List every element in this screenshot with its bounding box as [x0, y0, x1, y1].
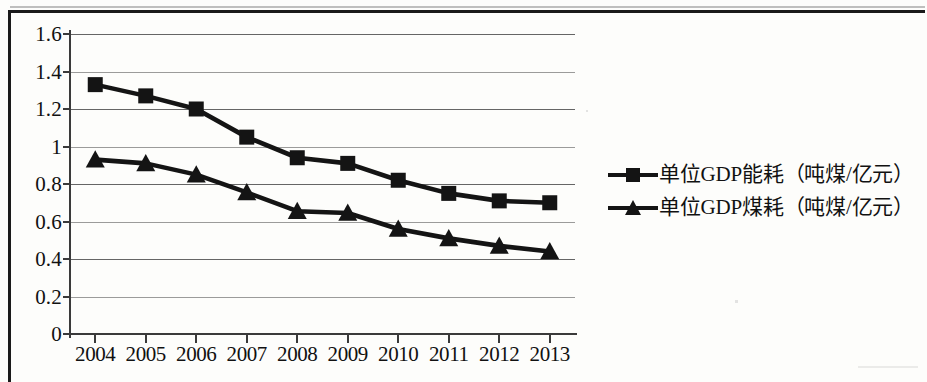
square-data-marker: [138, 88, 153, 103]
legend-label-coal: 单位GDP煤耗（吨煤/亿元）: [659, 197, 914, 218]
y-axis-tick-label: 1.4: [35, 62, 62, 83]
y-axis-tick-label: 0.8: [35, 174, 62, 195]
square-data-marker: [290, 150, 305, 165]
square-data-marker: [189, 102, 204, 117]
legend-label-energy: 单位GDP能耗（吨煤/亿元）: [659, 164, 914, 185]
x-axis-tick-label: 2010: [378, 344, 418, 365]
x-axis-tick-label: 2005: [126, 344, 166, 365]
line-chart: 00.20.40.60.811.21.41.6 2004200520062007…: [0, 0, 600, 382]
y-axis-tick-label: 0.6: [35, 212, 62, 233]
x-axis-tick-label: 2004: [75, 344, 115, 365]
series-energy: [88, 77, 558, 210]
x-axis-labels: 2004200520062007200820092010201120122013: [70, 344, 575, 376]
x-axis-tick-label: 2012: [479, 344, 519, 365]
x-axis-tick-label: 2006: [176, 344, 216, 365]
data-series-layer: [70, 34, 575, 334]
square-data-marker: [239, 130, 254, 145]
y-axis-tick-label: 0: [51, 324, 62, 345]
square-data-marker: [542, 195, 557, 210]
series-line: [95, 160, 550, 252]
square-data-marker: [340, 156, 355, 171]
plot-area: [70, 34, 575, 334]
scan-speck: [586, 110, 588, 112]
scan-speck: [735, 300, 738, 303]
y-axis-tick-label: 0.2: [35, 287, 62, 308]
x-axis-tick-label: 2009: [328, 344, 368, 365]
x-axis-tick-label: 2008: [277, 344, 317, 365]
y-axis-tick-label: 1.6: [35, 24, 62, 45]
y-axis-tick-label: 1: [51, 137, 62, 158]
square-data-marker: [492, 193, 507, 208]
series-line: [95, 85, 550, 203]
scan-speck: [858, 366, 918, 368]
x-axis-tick-label: 2007: [227, 344, 267, 365]
square-data-marker: [441, 186, 456, 201]
triangle-marker-icon: [607, 198, 659, 218]
series-coal: [86, 150, 560, 259]
square-data-marker: [391, 173, 406, 188]
legend-item-coal: 单位GDP煤耗（吨煤/亿元）: [607, 191, 925, 224]
y-axis-labels: 00.20.40.60.811.21.41.6: [0, 34, 62, 334]
square-marker-icon: [607, 165, 659, 185]
square-data-marker: [88, 77, 103, 92]
y-axis-tick-label: 1.2: [35, 99, 62, 120]
legend-item-energy: 单位GDP能耗（吨煤/亿元）: [607, 158, 925, 191]
chart-legend: 单位GDP能耗（吨煤/亿元） 单位GDP煤耗（吨煤/亿元）: [607, 158, 925, 224]
x-axis-tick-label: 2011: [429, 344, 469, 365]
y-axis-tick-label: 0.4: [35, 249, 62, 270]
x-axis-tick-label: 2013: [530, 344, 570, 365]
scanned-chart-page: 00.20.40.60.811.21.41.6 2004200520062007…: [0, 0, 927, 382]
